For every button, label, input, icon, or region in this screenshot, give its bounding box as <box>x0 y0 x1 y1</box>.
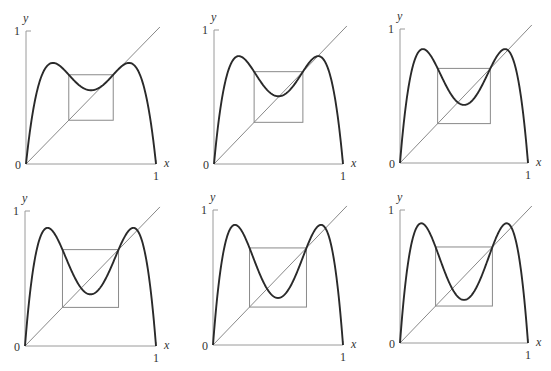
y-tick-one: 1 <box>388 22 394 36</box>
x-axis-label: x <box>163 338 170 352</box>
x-axis-label: x <box>350 156 357 170</box>
origin-label: 0 <box>389 337 395 351</box>
diagonal-line <box>400 206 532 343</box>
y-tick-one: 1 <box>201 203 207 217</box>
origin-label: 0 <box>14 340 20 354</box>
y-tick-one: 1 <box>13 204 19 218</box>
y-axis-label: y <box>396 190 403 204</box>
x-axis-label: x <box>350 337 357 351</box>
panel-3: 1y01x <box>388 9 542 182</box>
y-axis-label: y <box>210 10 217 24</box>
y-axis-label: y <box>209 190 216 204</box>
second-iterate-curve <box>213 225 343 345</box>
y-tick-one: 1 <box>14 24 20 38</box>
y-tick-one: 1 <box>202 23 208 37</box>
chart-canvas: 1y01x1y01x1y01x1y01x1y01x1y01x <box>0 0 551 371</box>
x-tick-one: 1 <box>340 169 346 183</box>
second-iterate-curve <box>26 63 156 164</box>
x-axis-label: x <box>535 335 542 349</box>
second-iterate-curve <box>400 49 528 163</box>
figure-grid: 1y01x1y01x1y01x1y01x1y01x1y01x <box>0 0 551 371</box>
x-axis-label: x <box>163 156 170 170</box>
diagonal-line <box>213 206 347 345</box>
second-iterate-curve <box>214 56 343 164</box>
origin-label: 0 <box>203 158 209 172</box>
panel-4: 1y01x <box>13 191 170 365</box>
second-iterate-curve <box>25 228 156 346</box>
y-axis-label: y <box>21 191 28 205</box>
origin-label: 0 <box>15 158 21 172</box>
x-tick-one: 1 <box>340 350 346 364</box>
diagonal-line <box>400 25 532 163</box>
x-tick-one: 1 <box>525 168 531 182</box>
x-tick-one: 1 <box>153 169 159 183</box>
y-axis-label: y <box>396 9 403 23</box>
panel-6: 1y01x <box>388 190 542 362</box>
diagonal-line <box>26 27 160 164</box>
x-axis-label: x <box>535 155 542 169</box>
x-tick-one: 1 <box>525 348 531 362</box>
origin-label: 0 <box>202 339 208 353</box>
diagonal-line <box>214 26 347 164</box>
panel-2: 1y01x <box>202 10 357 183</box>
panel-1: 1y01x <box>14 11 170 183</box>
origin-label: 0 <box>389 157 395 171</box>
y-axis-label: y <box>22 11 29 25</box>
panel-5: 1y01x <box>201 190 357 364</box>
x-tick-one: 1 <box>153 351 159 365</box>
second-iterate-curve <box>400 223 528 343</box>
y-tick-one: 1 <box>388 203 394 217</box>
